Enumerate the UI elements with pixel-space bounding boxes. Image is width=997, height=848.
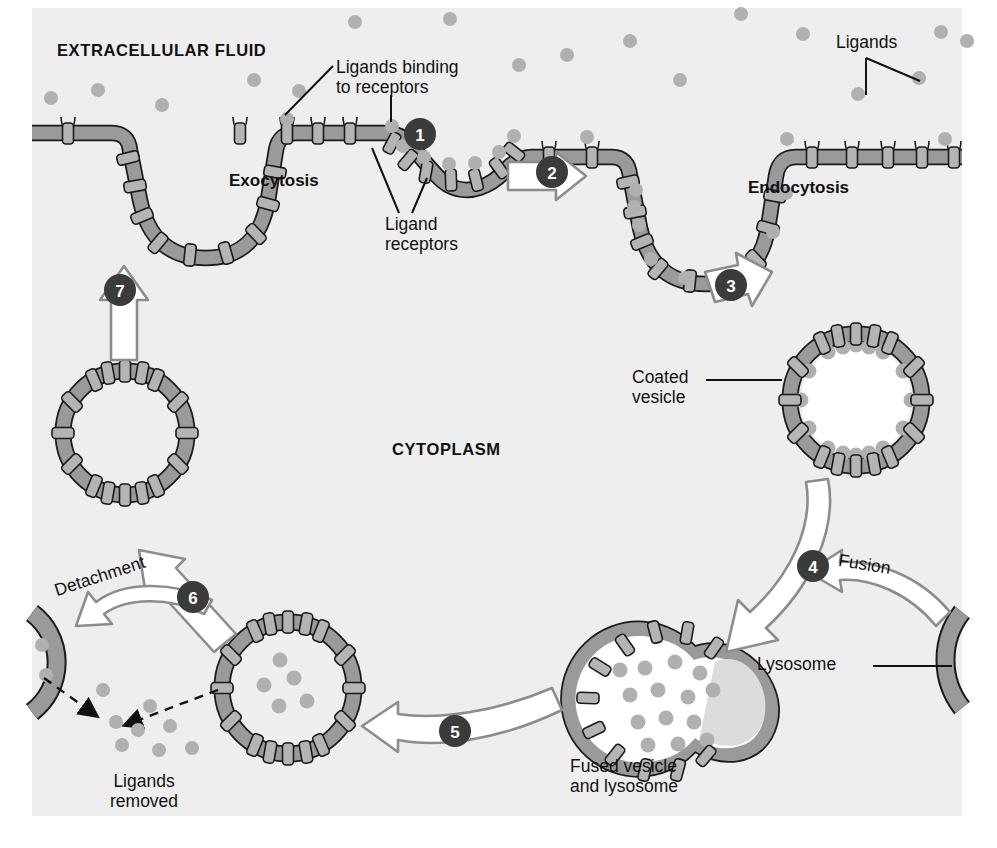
exocytosis-label: Exocytosis [229, 171, 319, 190]
ligands-binding-label: Ligands binding to receptors [336, 58, 459, 97]
svg-text:1: 1 [415, 126, 424, 145]
coated-vesicle [779, 323, 933, 477]
lysosome-label: Lysosome [757, 655, 836, 675]
step-badge-4: 4 [797, 550, 829, 582]
figure-canvas: 1 2 3 4 5 6 7 EXTRACELLULAR FLUID CYTOPL… [0, 0, 997, 848]
step-badge-3: 3 [715, 269, 747, 301]
svg-text:7: 7 [115, 282, 124, 301]
ligands-removed-label: Ligands removed [110, 772, 178, 811]
cytoplasm-label: CYTOPLASM [392, 440, 501, 458]
extracellular-fluid-label: EXTRACELLULAR FLUID [57, 41, 266, 59]
endocytosis-diagram: 1 2 3 4 5 6 7 [0, 0, 997, 848]
svg-text:3: 3 [726, 277, 735, 296]
svg-text:2: 2 [547, 164, 556, 183]
svg-text:4: 4 [808, 558, 818, 577]
ligand-receptors-label: Ligand receptors [385, 215, 458, 254]
svg-text:6: 6 [188, 589, 197, 608]
removed-ligands [96, 683, 199, 757]
step-badge-2: 2 [536, 156, 568, 188]
step-badge-1: 1 [404, 118, 436, 150]
ligands-label: Ligands [836, 33, 897, 53]
svg-text:5: 5 [450, 723, 459, 742]
receptor-crescent-left [32, 613, 57, 712]
ligand-removal-arrows [44, 678, 218, 724]
receptor-vesicle-empty [52, 360, 198, 506]
coated-vesicle-label: Coated vesicle [632, 368, 688, 407]
step-badge-5: 5 [439, 715, 471, 747]
step-badge-7: 7 [104, 274, 136, 306]
step-badge-6: 6 [177, 581, 209, 613]
fused-vesicle-label: Fused vesicle and lysosome [570, 757, 678, 796]
lysosome [945, 612, 962, 708]
endocytosis-label: Endocytosis [748, 178, 849, 197]
